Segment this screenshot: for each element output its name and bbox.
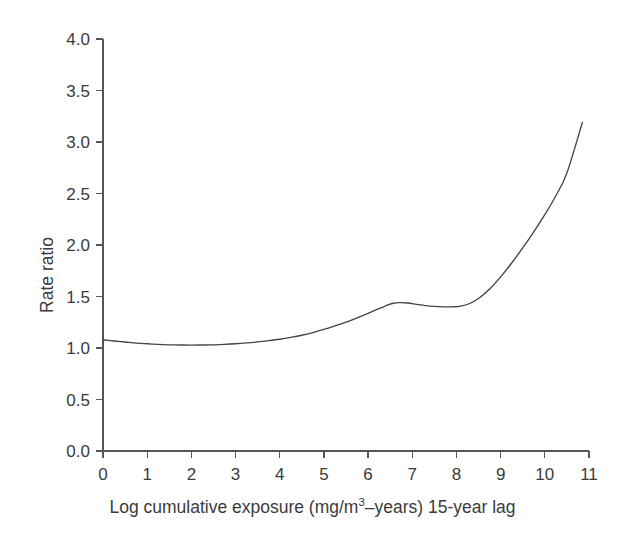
y-tick-label: 0.0	[66, 443, 90, 460]
rate-ratio-curve	[103, 122, 582, 345]
y-tick-label: 4.0	[66, 31, 90, 48]
x-tick-label: 7	[408, 466, 417, 483]
x-tick-label: 4	[275, 466, 284, 483]
plot-canvas	[0, 0, 625, 549]
x-tick-label: 11	[580, 466, 598, 483]
y-tick-label: 3.0	[66, 134, 90, 151]
x-tick-label: 5	[319, 466, 328, 483]
x-tick-label: 8	[452, 466, 461, 483]
x-axis-title-suffix: –years) 15-year lag	[365, 497, 516, 517]
x-tick-label: 2	[187, 466, 196, 483]
y-tick-label: 2.5	[66, 185, 90, 202]
x-axis-ticks	[103, 451, 589, 458]
x-tick-label: 0	[98, 466, 107, 483]
chart-figure: 0.00.51.01.52.02.53.03.54.0 012345678910…	[0, 0, 625, 549]
x-tick-label: 10	[535, 466, 554, 483]
x-tick-label: 1	[142, 466, 151, 483]
x-tick-label: 6	[363, 466, 372, 483]
y-tick-label: 2.0	[66, 237, 90, 254]
y-tick-label: 3.5	[66, 82, 90, 99]
x-tick-label: 9	[496, 466, 505, 483]
y-tick-label: 1.0	[66, 340, 90, 357]
y-axis-title: Rate ratio	[37, 237, 58, 313]
y-tick-label: 1.5	[66, 288, 90, 305]
y-axis-ticks	[96, 39, 103, 451]
x-axis-title-prefix: Log cumulative exposure (mg/m	[109, 497, 358, 517]
y-tick-label: 0.5	[66, 391, 90, 408]
x-tick-label: 3	[231, 466, 240, 483]
x-axis-title: Log cumulative exposure (mg/m3–years) 15…	[0, 497, 625, 518]
